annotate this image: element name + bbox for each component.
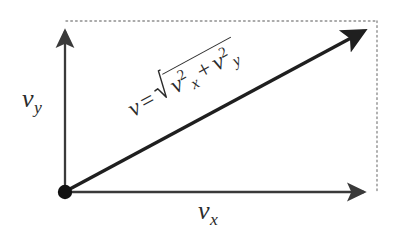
y-axis-label: vy [22, 86, 42, 116]
origin-dot [58, 185, 72, 199]
y-axis-label-subscript: y [34, 97, 42, 117]
x-axis-label-symbol: v [198, 196, 210, 225]
x-axis-label-subscript: x [210, 209, 218, 229]
vector-diagram-figure: vy vx v= v2x+v2y [0, 0, 404, 237]
x-axis-label: vx [198, 198, 218, 228]
y-axis-label-symbol: v [22, 84, 34, 113]
